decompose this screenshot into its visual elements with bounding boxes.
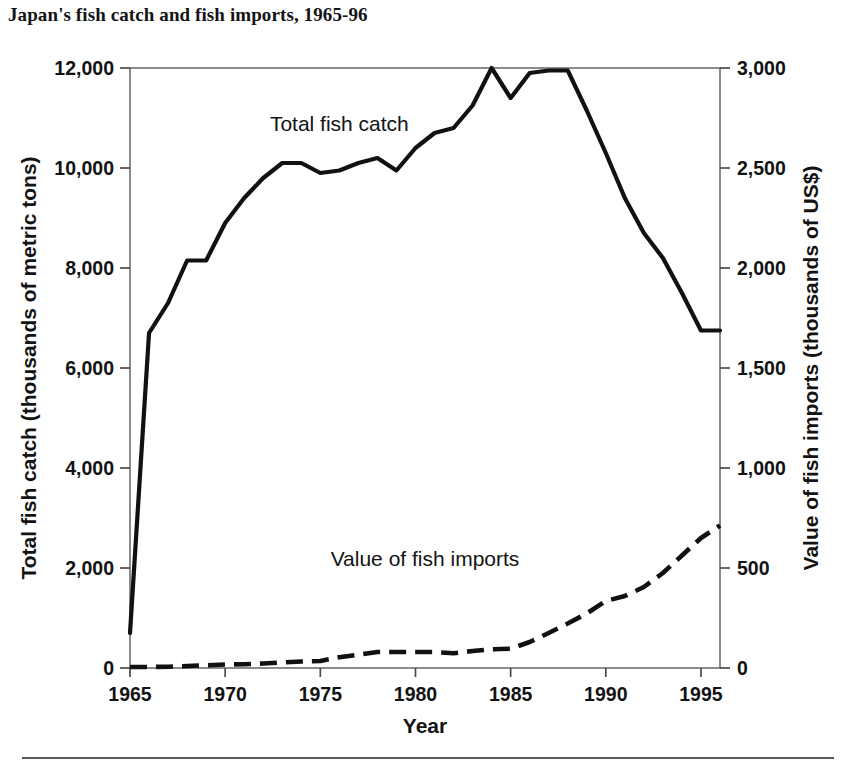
y-right-tick-label: 3,000 [737,57,786,79]
series-annotation-label: Value of fish imports [331,547,520,570]
y-axis-left-ticks: 02,0004,0006,0008,00010,00012,000 [54,57,130,679]
footer-rule [22,757,834,759]
x-tick-label: 1975 [299,683,343,705]
x-tick-label: 1970 [203,683,247,705]
series-annotations: Total fish catchValue of fish imports [270,112,519,570]
x-tick-label: 1965 [108,683,152,705]
y-left-tick-label: 2,000 [65,557,114,579]
x-tick-label: 1995 [679,683,723,705]
y-left-tick-label: 12,000 [54,57,114,79]
x-axis-title: Year [403,714,447,737]
y-right-tick-label: 2,500 [737,157,786,179]
y-axis-right-ticks: 05001,0001,5002,0002,5003,000 [720,57,786,679]
x-axis-ticks: 1965197019751980198519901995 [108,668,723,705]
y-right-tick-label: 1,500 [737,357,786,379]
y-left-tick-label: 10,000 [54,157,114,179]
x-tick-label: 1980 [394,683,438,705]
y-axis-left-title: Total fish catch (thousands of metric to… [17,156,40,579]
chart-plot-area: 1965197019751980198519901995 02,0004,000… [0,0,852,776]
y-right-tick-label: 2,000 [737,257,786,279]
y-left-tick-label: 6,000 [65,357,114,379]
y-right-tick-label: 500 [737,557,770,579]
y-axis-right-title: Value of fish imports (thousands of US$) [799,166,822,571]
axes-group [130,68,720,668]
chart-figure: Japan's fish catch and fish imports, 196… [0,0,852,776]
plot-frame [130,68,720,668]
y-right-tick-label: 1,000 [737,457,786,479]
y-left-tick-label: 8,000 [65,257,114,279]
data-series-group [130,68,720,667]
x-tick-label: 1990 [584,683,628,705]
y-left-tick-label: 0 [103,657,114,679]
series-annotation-label: Total fish catch [270,112,409,135]
y-left-tick-label: 4,000 [65,457,114,479]
x-tick-label: 1985 [489,683,533,705]
y-right-tick-label: 0 [737,657,748,679]
